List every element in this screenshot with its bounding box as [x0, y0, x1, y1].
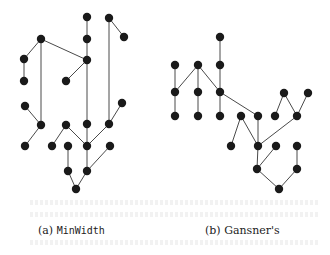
graph-node — [72, 185, 80, 193]
graph-node — [21, 142, 29, 150]
graph-node — [21, 102, 29, 110]
graph-edge — [175, 65, 198, 92]
panel-a-minwidth-graph — [20, 13, 128, 193]
panel-a-nodes — [20, 13, 128, 193]
graph-node — [271, 112, 279, 120]
graph-node — [105, 120, 113, 128]
graph-node — [37, 35, 45, 43]
bleed-through-texture — [30, 212, 320, 217]
graph-node — [37, 121, 45, 129]
graph-node — [237, 112, 245, 120]
graph-edge — [257, 169, 279, 189]
caption-b-name: Gansner's — [224, 224, 280, 237]
graph-node — [106, 142, 114, 150]
graph-node — [171, 112, 179, 120]
graph-node — [171, 61, 179, 69]
graph-node — [293, 112, 301, 120]
graph-node — [293, 165, 301, 173]
graph-edge — [231, 116, 241, 146]
graph-node — [275, 185, 283, 193]
graph-node — [216, 33, 224, 41]
graph-node — [194, 61, 202, 69]
graph-node — [83, 167, 91, 175]
graph-node — [272, 142, 280, 150]
graph-edge — [241, 116, 258, 146]
graph-node — [216, 112, 224, 120]
graph-node — [48, 142, 56, 150]
bleed-through-texture — [30, 200, 320, 205]
caption-b: (b) Gansner's — [205, 224, 280, 237]
graph-edge — [41, 39, 87, 60]
graph-node — [216, 61, 224, 69]
graph-node — [194, 112, 202, 120]
panel-a-edges — [24, 17, 124, 189]
graph-node — [83, 13, 91, 21]
graph-edge — [87, 124, 109, 146]
graph-node — [120, 33, 128, 41]
graph-node — [83, 120, 91, 128]
graph-node — [280, 89, 288, 97]
graph-node — [105, 14, 113, 22]
caption-a-name: MinWidth — [57, 225, 105, 236]
graph-edge — [87, 146, 110, 171]
graph-node — [227, 142, 235, 150]
graph-node — [20, 77, 28, 85]
graph-node — [62, 77, 70, 85]
panel-b-nodes — [171, 33, 312, 193]
graph-node — [64, 167, 72, 175]
graph-node — [194, 88, 202, 96]
graph-node — [83, 56, 91, 64]
graph-node — [83, 142, 91, 150]
graph-edge — [66, 60, 87, 81]
graph-edge — [198, 65, 220, 92]
graph-node — [62, 121, 70, 129]
graph-node — [118, 99, 126, 107]
graph-node — [293, 142, 301, 150]
graph-node — [254, 142, 262, 150]
graph-edge — [258, 116, 297, 146]
graph-node — [304, 89, 312, 97]
graph-node — [253, 165, 261, 173]
caption-b-prefix: (b) — [205, 224, 224, 237]
caption-a-prefix: (a) — [38, 224, 57, 237]
panel-b-gansner-graph — [171, 33, 312, 193]
graph-node — [216, 88, 224, 96]
graph-node — [20, 55, 28, 63]
graph-node — [171, 88, 179, 96]
graph-node — [83, 35, 91, 43]
caption-a: (a) MinWidth — [38, 224, 105, 237]
bleed-through-texture — [30, 240, 320, 245]
graph-node — [64, 142, 72, 150]
graph-node — [254, 112, 262, 120]
